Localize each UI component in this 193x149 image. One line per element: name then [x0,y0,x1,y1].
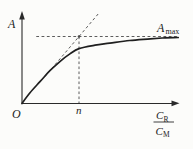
n-tick-label: n [76,104,82,116]
origin-label: O [12,107,21,121]
x-axis-arrowhead-icon [172,100,180,106]
absorbance-curve [22,38,178,104]
amax-label-subscript: max [166,27,180,36]
x-axis-label-denominator-subscript: M [163,130,170,139]
saturation-curve-plot: A O n A max C R C M [0,0,193,149]
amax-label: A [156,21,165,35]
y-axis-arrowhead-icon [19,11,25,20]
figure-canvas: A O n A max C R C M [0,0,193,149]
tangent-asymptote-intersection-dot [78,35,81,38]
y-axis-label: A [7,17,16,31]
